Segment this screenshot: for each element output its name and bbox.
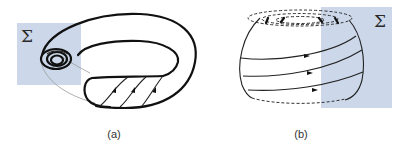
caption-a: (a)	[107, 128, 120, 140]
panel-b: Σ (b)	[240, 7, 392, 140]
caption-b: (b)	[294, 128, 307, 140]
ring-tick	[281, 18, 284, 22]
flow-arrow-icon	[307, 71, 313, 75]
sigma-label-a: Σ	[21, 26, 33, 46]
flow-arrow-icon	[312, 88, 318, 92]
panel-a: Σ (a)	[17, 14, 196, 140]
flow-arrow-icon	[131, 87, 135, 93]
sigma-label-b: Σ	[374, 11, 386, 31]
figure-canvas: Σ (a) Σ	[0, 0, 407, 147]
flow-arrow-icon	[112, 87, 116, 93]
torus-hole-top	[78, 41, 178, 76]
